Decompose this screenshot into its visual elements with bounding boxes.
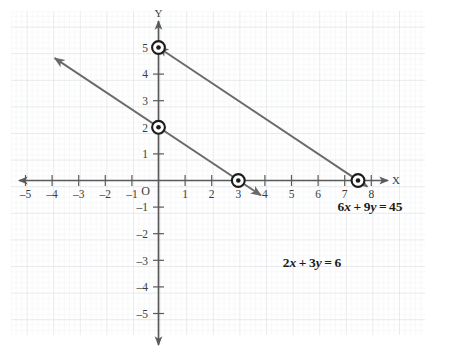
y-axis-label: Y	[155, 7, 163, 19]
x-tick-label: 4	[262, 188, 268, 200]
x-tick-label: 3	[235, 188, 241, 200]
y-tick-label: –5	[136, 308, 149, 320]
x-tick-label: –5	[19, 188, 32, 200]
x-tick-label: –1	[125, 188, 138, 200]
x-axis-label: X	[392, 174, 400, 186]
graph-figure: –5 –4 –3 –2 –1 1 2 3 4 5 6 7 8 5 4 3 2 1…	[0, 0, 455, 358]
x-tick-label: –2	[99, 188, 112, 200]
x-tick-label: 6	[315, 188, 321, 200]
x-tick-label: –3	[72, 188, 85, 200]
y-tick-label: 4	[142, 68, 148, 80]
grid-area	[11, 11, 425, 335]
point-marker-0-2	[152, 121, 165, 134]
y-tick-label: 5	[142, 42, 148, 54]
y-tick-label: 3	[142, 95, 148, 107]
point-marker-3-0	[232, 174, 245, 187]
y-tick-label: –3	[136, 255, 149, 267]
y-tick-label: –4	[136, 281, 149, 293]
x-tick-label: 2	[209, 188, 215, 200]
y-tick-label: 2	[142, 122, 148, 134]
y-tick-label: –2	[136, 228, 149, 240]
equation-label-6x-9y-45: 6x+9y=45	[337, 199, 402, 214]
point-marker-0-5	[152, 41, 165, 54]
x-tick-label: 1	[182, 188, 188, 200]
point-marker-7p5-0	[352, 174, 365, 187]
y-tick-label: –1	[136, 201, 149, 213]
x-tick-label: –4	[45, 188, 58, 200]
x-tick-label: 5	[289, 188, 295, 200]
coordinate-plane: –5 –4 –3 –2 –1 1 2 3 4 5 6 7 8 5 4 3 2 1…	[0, 0, 455, 358]
y-tick-label: 1	[142, 148, 148, 160]
origin-label: O	[141, 184, 150, 198]
